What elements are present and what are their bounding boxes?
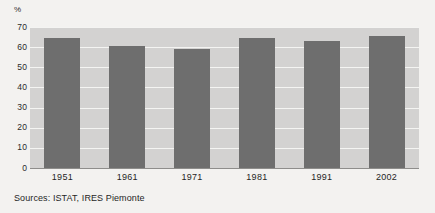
- x-axis-tick-label: 1951: [30, 171, 95, 183]
- bar: [304, 41, 340, 168]
- bar-slot: [369, 27, 405, 168]
- y-axis-tick-label: 20: [1, 123, 27, 132]
- gridline: [30, 67, 419, 68]
- y-axis-tick-label: 60: [1, 43, 27, 52]
- y-axis-tick-label: 40: [1, 83, 27, 92]
- x-axis-tick-label: 1971: [160, 171, 225, 183]
- x-axis-tick-label: 1961: [95, 171, 160, 183]
- gridline: [30, 47, 419, 48]
- bar: [109, 46, 145, 168]
- x-axis-tick-label: 1991: [289, 171, 354, 183]
- y-axis-tick-label: 70: [1, 23, 27, 32]
- bar-slot: [109, 27, 145, 168]
- y-axis-tick-label: 50: [1, 63, 27, 72]
- x-axis-tick-labels: 195119611971198119912002: [30, 171, 419, 185]
- x-axis-line: [30, 168, 419, 169]
- source-note: Sources: ISTAT, IRES Piemonte: [14, 192, 145, 204]
- y-axis-tick-label: 10: [1, 143, 27, 152]
- bar: [239, 38, 275, 168]
- x-axis-tick-label: 2002: [354, 171, 419, 183]
- y-axis-tick-label: 0: [1, 164, 27, 173]
- gridline: [30, 27, 419, 28]
- bar-chart-figure: % 010203040506070 1951196119711981199120…: [0, 0, 435, 213]
- bar: [174, 49, 210, 168]
- y-axis-tick-label: 30: [1, 103, 27, 112]
- bar-slot: [239, 27, 275, 168]
- gridline: [30, 108, 419, 109]
- bar-slot: [174, 27, 210, 168]
- gridline: [30, 87, 419, 88]
- bar-slot: [304, 27, 340, 168]
- gridline: [30, 148, 419, 149]
- bar: [369, 36, 405, 168]
- bar: [44, 38, 80, 168]
- bar-slot: [44, 27, 80, 168]
- y-axis-tick-labels: 010203040506070: [0, 0, 27, 213]
- gridline: [30, 128, 419, 129]
- plot-area: [30, 27, 419, 168]
- x-axis-tick-label: 1981: [225, 171, 290, 183]
